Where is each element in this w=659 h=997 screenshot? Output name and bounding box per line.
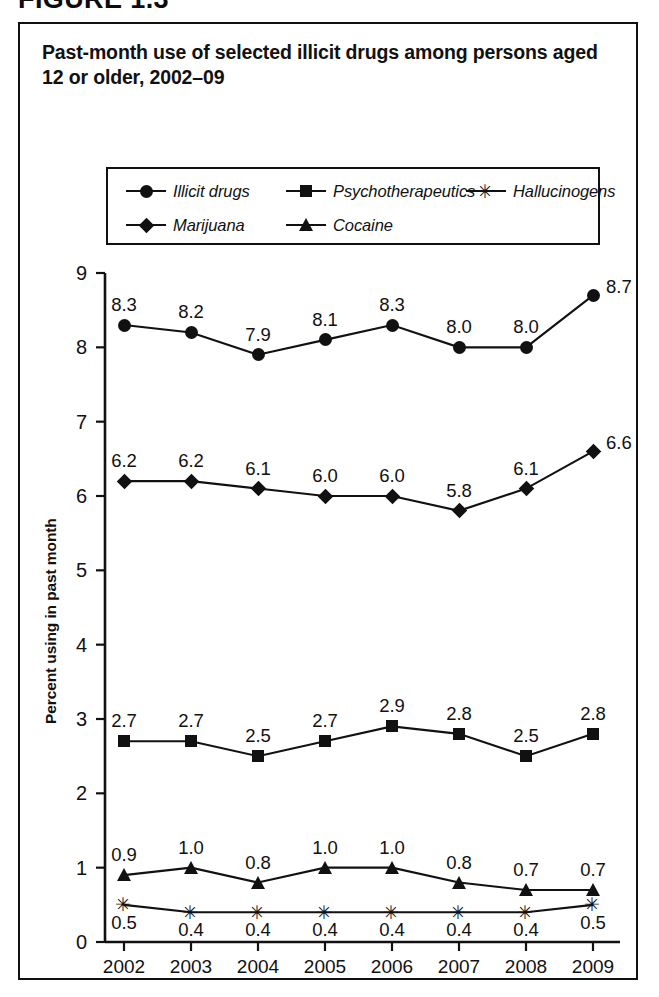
data-label: 6.6 [606, 432, 632, 454]
data-point-illicit-drugs [319, 333, 332, 346]
data-label: 8.3 [111, 294, 137, 316]
y-axis-tick-label: 8 [53, 336, 87, 359]
data-point-cocaine [519, 883, 533, 896]
data-label: 2.7 [178, 710, 204, 732]
data-label: 7.9 [245, 324, 271, 346]
y-axis-tick-label: 9 [53, 262, 87, 285]
data-point-cocaine [318, 861, 332, 874]
data-label: 0.4 [312, 919, 338, 941]
data-point-psychotherapeutics [520, 750, 532, 762]
y-axis-tick-label: 0 [53, 931, 87, 954]
data-point-illicit-drugs [587, 289, 600, 302]
y-axis-tick-label: 1 [53, 856, 87, 879]
data-point-cocaine [117, 868, 131, 881]
data-label: 2.8 [580, 703, 606, 725]
data-label: 1.0 [379, 837, 405, 859]
data-point-illicit-drugs [252, 348, 265, 361]
data-point-illicit-drugs [453, 341, 466, 354]
figure-box: Past-month use of selected illicit drugs… [18, 22, 638, 980]
x-axis-tick-label: 2008 [491, 956, 561, 978]
data-label: 6.0 [379, 465, 405, 487]
data-point-cocaine [184, 861, 198, 874]
data-point-illicit-drugs [386, 319, 399, 332]
data-point-psychotherapeutics [386, 720, 398, 732]
data-label: 8.0 [446, 316, 472, 338]
data-label: 1.0 [312, 837, 338, 859]
x-axis-tick-label: 2002 [89, 956, 159, 978]
data-point-illicit-drugs [185, 326, 198, 339]
x-axis-tick-label: 2004 [223, 956, 293, 978]
data-label: 5.8 [446, 480, 472, 502]
data-label: 0.4 [379, 919, 405, 941]
x-axis-tick-label: 2006 [357, 956, 427, 978]
data-label: 8.0 [513, 316, 539, 338]
data-point-psychotherapeutics [453, 728, 465, 740]
chart-plot-area: 0123456789200220032004200520062007200820… [20, 24, 640, 982]
data-label: 0.4 [513, 919, 539, 941]
data-label: 2.5 [513, 725, 539, 747]
data-point-psychotherapeutics [118, 735, 130, 747]
data-label: 0.8 [446, 852, 472, 874]
data-label: 1.0 [178, 837, 204, 859]
data-label: 2.7 [111, 710, 137, 732]
data-label: 8.2 [178, 301, 204, 323]
data-label: 0.5 [580, 912, 606, 934]
data-point-illicit-drugs [520, 341, 533, 354]
data-label: 6.2 [178, 450, 204, 472]
data-label: 0.4 [446, 919, 472, 941]
data-label: 6.1 [513, 458, 539, 480]
data-point-psychotherapeutics [252, 750, 264, 762]
data-label: 0.8 [245, 852, 271, 874]
y-axis-tick-label: 2 [53, 782, 87, 805]
data-point-illicit-drugs [118, 319, 131, 332]
y-axis-tick-label: 7 [53, 410, 87, 433]
y-axis-tick-label: 6 [53, 485, 87, 508]
data-label: 8.3 [379, 294, 405, 316]
x-axis-tick-label: 2005 [290, 956, 360, 978]
data-point-psychotherapeutics [587, 728, 599, 740]
data-label: 0.5 [111, 912, 137, 934]
data-point-psychotherapeutics [319, 735, 331, 747]
y-axis-title: Percent using in past month [42, 518, 60, 724]
data-point-cocaine [452, 876, 466, 889]
data-label: 6.1 [245, 458, 271, 480]
data-label: 6.0 [312, 465, 338, 487]
data-label: 8.7 [606, 276, 632, 298]
x-axis-tick-label: 2003 [156, 956, 226, 978]
data-label: 0.9 [111, 844, 137, 866]
x-axis-tick-label: 2007 [424, 956, 494, 978]
data-label: 6.2 [111, 450, 137, 472]
data-label: 0.4 [245, 919, 271, 941]
data-label: 2.8 [446, 703, 472, 725]
x-axis-tick-label: 2009 [558, 956, 628, 978]
data-label: 0.7 [513, 859, 539, 881]
data-label: 2.7 [312, 710, 338, 732]
data-point-cocaine [251, 876, 265, 889]
data-point-cocaine [385, 861, 399, 874]
data-label: 8.1 [312, 309, 338, 331]
data-label: 0.7 [580, 859, 606, 881]
data-label: 2.9 [379, 695, 405, 717]
data-label: 2.5 [245, 725, 271, 747]
data-label: 0.4 [178, 919, 204, 941]
data-point-psychotherapeutics [185, 735, 197, 747]
figure-caption: FIGURE 1.3 [18, 0, 169, 15]
